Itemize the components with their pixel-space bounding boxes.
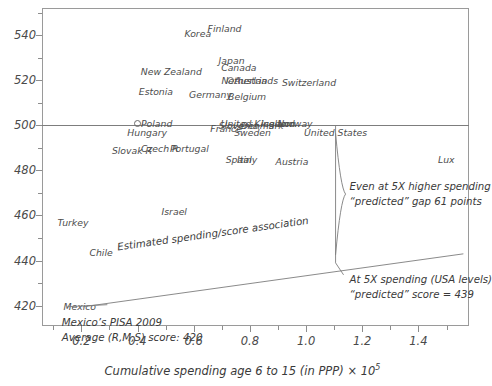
y-axis-tick-label: 420 [4, 299, 36, 313]
y-axis-tick-minor [38, 13, 42, 14]
x-axis-title-exponent: 5 [375, 363, 380, 372]
data-point-label: Portugal [170, 144, 209, 153]
data-point-label: New Zealand [141, 67, 202, 76]
x-axis-title: Cumulative spending age 6 to 15 (in PPP)… [0, 363, 485, 378]
gap-annotation: Even at 5X higher spending “predicted” g… [350, 180, 491, 210]
data-point-label: United States [304, 128, 367, 137]
x-axis-tick-major [306, 326, 307, 332]
data-point-label: Estonia [139, 87, 173, 96]
x-axis-tick-minor [447, 326, 448, 330]
data-point-label: Chile [89, 248, 112, 257]
predicted-annotation-line2: “predicted” score = 439 [350, 288, 492, 303]
data-point-label: Turkey [57, 218, 88, 227]
mexico-annotation-line1: Mexico’s PISA 2009 [62, 315, 203, 330]
data-point-label: Finland [208, 24, 242, 33]
y-axis-tick-major [36, 306, 42, 307]
predicted-annotation-line1: At 5X spending (USA levels) [350, 273, 492, 288]
y-axis-tick-label: 460 [4, 208, 36, 222]
data-point-label: Germany [189, 90, 232, 99]
data-point-label: Lux [438, 155, 455, 164]
data-point-label: Italy [237, 155, 257, 164]
x-axis-tick-major [418, 326, 419, 332]
y-axis-tick-label: 520 [4, 73, 36, 87]
x-axis-tick-major [362, 326, 363, 332]
x-axis-tick-label: 1.4 [398, 334, 438, 348]
x-axis-tick-label: 1.2 [342, 334, 382, 348]
y-axis-tick-label: 480 [4, 163, 36, 177]
data-point-label: Slovak R [112, 146, 152, 155]
y-axis-tick-label: 440 [4, 254, 36, 268]
data-point-label: Israel [162, 207, 187, 216]
data-point-label: Canada [221, 63, 256, 72]
y-axis-tick-label: 540 [4, 28, 36, 42]
x-axis-title-text: Cumulative spending age 6 to 15 (in PPP)… [105, 364, 376, 378]
x-axis-tick-label: 0.6 [174, 334, 214, 348]
y-axis-tick-major [36, 125, 42, 126]
data-point-label: Hungary [127, 128, 167, 137]
x-axis-tick-minor [222, 326, 223, 330]
y-axis-tick-major [36, 35, 42, 36]
x-axis-tick-label: 0.8 [230, 334, 270, 348]
x-axis-tick-minor [390, 326, 391, 330]
y-axis-tick-minor [38, 238, 42, 239]
data-point-marker [134, 120, 141, 127]
data-point-label: Netherlands [221, 76, 278, 85]
y-axis-tick-major [36, 215, 42, 216]
data-point-label: Switzerland [282, 78, 336, 87]
y-axis-tick-major [36, 80, 42, 81]
data-point-label: Sweden [234, 128, 271, 137]
y-axis-tick-major [36, 170, 42, 171]
gap-annotation-line1: Even at 5X higher spending [350, 180, 491, 195]
y-axis-tick-label: 500 [4, 118, 36, 132]
data-point-label: Belgium [228, 92, 266, 101]
y-axis-tick-major [36, 261, 42, 262]
x-axis-tick-label: 0.4 [118, 334, 158, 348]
y-axis-tick-minor [38, 103, 42, 104]
y-axis-tick-minor [38, 148, 42, 149]
x-axis-tick-label: 1.0 [286, 334, 326, 348]
data-point-label: Mexico [63, 302, 96, 311]
x-axis-tick-label: 0.2 [61, 334, 101, 348]
y-axis-tick-minor [38, 283, 42, 284]
y-axis-tick-minor [38, 58, 42, 59]
data-point-label: Austria [276, 157, 309, 166]
gap-annotation-line2: “predicted” gap 61 points [350, 195, 491, 210]
x-axis-tick-major [250, 326, 251, 332]
y-axis-tick-minor [38, 193, 42, 194]
x-axis-tick-minor [334, 326, 335, 330]
x-axis-tick-minor [53, 326, 54, 330]
x-axis-tick-minor [278, 326, 279, 330]
predicted-annotation: At 5X spending (USA levels) “predicted” … [350, 273, 492, 303]
